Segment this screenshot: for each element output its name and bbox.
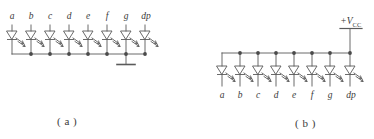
panel-b-circuit — [217, 29, 363, 87]
pin-label-a-panel-b: a — [220, 90, 225, 100]
led-d-panel-b — [271, 53, 289, 86]
pin-label-f-panel-b: f — [311, 90, 314, 100]
supply-voltage-label: +VCC — [340, 16, 361, 28]
led-d-panel-a — [64, 25, 82, 54]
pin-label-f-panel-a: f — [106, 11, 109, 21]
led-a-panel-a — [7, 25, 25, 54]
pin-label-d-panel-b: d — [274, 90, 279, 100]
led-a-panel-b — [217, 53, 235, 86]
led-e-panel-a — [83, 25, 101, 54]
pin-label-b-panel-b: b — [238, 90, 243, 100]
pin-label-b-panel-a: b — [29, 11, 34, 21]
figure-page: ▫ ▫ ▫ ▫ ▫ ▫ ▫ ▫ ▫ — [0, 0, 374, 139]
led-dp-panel-b — [345, 53, 363, 86]
supply-voltage-subscript: CC — [353, 21, 362, 28]
pin-label-g-panel-a: g — [124, 11, 129, 21]
supply-voltage-symbol: +V — [340, 16, 352, 26]
led-g-panel-a — [121, 25, 139, 54]
pin-label-a-panel-a: a — [10, 11, 15, 21]
caption-panel-a: ( a ) — [57, 115, 77, 127]
caption-panel-b: ( b ) — [295, 117, 316, 129]
pin-label-dp-panel-a: dp — [141, 11, 151, 21]
pin-label-g-panel-b: g — [328, 90, 333, 100]
led-f-panel-a — [102, 25, 120, 54]
led-e-panel-b — [289, 53, 307, 86]
pin-label-dp-panel-b: dp — [346, 90, 356, 100]
led-c-panel-b — [253, 53, 271, 86]
panel-a-circuit — [7, 25, 158, 65]
led-b-panel-a — [26, 25, 44, 54]
led-dp-panel-a — [140, 25, 158, 54]
pin-label-c-panel-b: c — [256, 90, 260, 100]
pin-label-e-panel-a: e — [86, 11, 90, 21]
led-f-panel-b — [307, 53, 325, 86]
led-c-panel-a — [45, 25, 63, 54]
pin-label-d-panel-a: d — [67, 11, 72, 21]
led-g-panel-b — [325, 53, 343, 86]
pin-label-e-panel-b: e — [292, 90, 296, 100]
pin-label-c-panel-a: c — [48, 11, 52, 21]
led-b-panel-b — [235, 53, 253, 86]
